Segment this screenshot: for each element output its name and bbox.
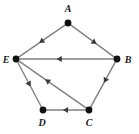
arrowhead-icon-c-d xyxy=(63,107,68,113)
arrowhead-icon-b-e xyxy=(57,56,62,62)
arrowhead-icon-a-b xyxy=(91,38,97,44)
graph-vertex-e xyxy=(13,56,20,63)
graph-canvas: ABCDE xyxy=(0,0,139,134)
graph-vertex-a xyxy=(65,20,72,27)
graph-vertex-b xyxy=(114,56,121,63)
graph-vertex-d xyxy=(40,107,47,114)
vertex-label-b: B xyxy=(124,54,132,65)
vertex-label-e: E xyxy=(2,54,10,65)
directed-graph-figure: ABCDE xyxy=(0,0,139,134)
edge-layer xyxy=(17,25,115,110)
vertex-layer xyxy=(13,20,121,114)
vertex-label-a: A xyxy=(64,3,72,14)
vertex-label-c: C xyxy=(86,117,93,128)
graph-edge-b-c xyxy=(90,61,115,107)
vertex-label-d: D xyxy=(37,117,45,128)
graph-vertex-c xyxy=(86,107,93,114)
